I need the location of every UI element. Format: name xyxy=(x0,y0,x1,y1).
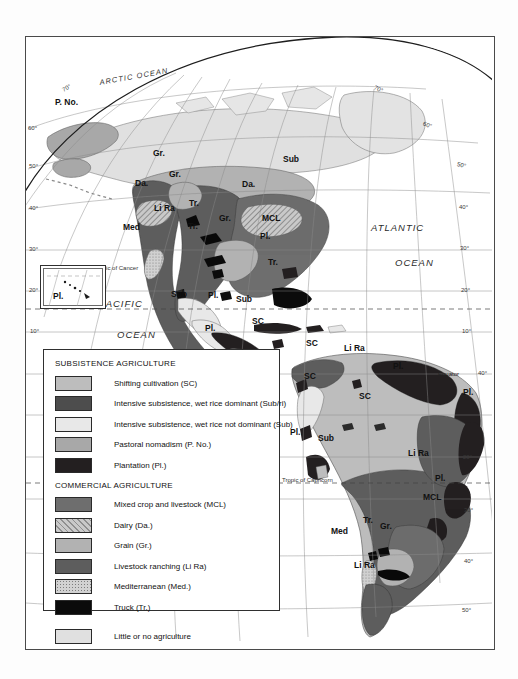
legend-heading-subsistence: SUBSISTENCE AGRICULTURE xyxy=(55,359,279,368)
legend-label-plantation: Plantation (Pl.) xyxy=(114,461,166,470)
legend-label-mediterranean: Mediterranean (Med.) xyxy=(114,582,191,591)
legend-label-grain: Grain (Gr.) xyxy=(114,541,152,550)
hawaii-inset-map xyxy=(43,268,105,308)
legend-item-grain[interactable]: Grain (Gr.) xyxy=(55,536,279,557)
swatch-intensive-subsistence-wet-rice-not-dominant xyxy=(55,417,92,432)
page-root: ARCTIC OCEAN ATLANTIC OCEAN PACIFIC OCEA… xyxy=(0,0,518,679)
swatch-intensive-subsistence-wet-rice-dominant xyxy=(55,396,92,411)
legend-label-dairy: Dairy (Da.) xyxy=(114,521,153,530)
legend-item-livestock-ranching[interactable]: Livestock ranching (Li Ra) xyxy=(55,556,279,577)
legend-item-mixed-crop-and-livestock[interactable]: Mixed crop and livestock (MCL) xyxy=(55,495,279,516)
legend-item-mediterranean[interactable]: Mediterranean (Med.) xyxy=(55,577,279,598)
legend-item-shifting-cultivation[interactable]: Shifting cultivation (SC) xyxy=(55,373,279,394)
swatch-grain xyxy=(55,538,92,553)
legend-label-truck: Truck (Tr.) xyxy=(114,603,150,612)
legend-heading-commercial: COMMERCIAL AGRICULTURE xyxy=(55,481,279,490)
legend-item-intensive-subsistence-wet-rice-dominant[interactable]: Intensive subsistence, wet rice dominant… xyxy=(55,394,279,415)
legend-label-shifting-cultivation: Shifting cultivation (SC) xyxy=(114,379,197,388)
swatch-truck xyxy=(55,600,92,615)
legend-item-intensive-subsistence-wet-rice-not-dominant[interactable]: Intensive subsistence, wet rice not domi… xyxy=(55,414,279,435)
legend-label-little-or-no-agriculture: Little or no agriculture xyxy=(114,632,191,641)
swatch-dairy xyxy=(55,518,92,533)
hawaii-inset: Pl. xyxy=(40,265,106,309)
legend-item-truck[interactable]: Truck (Tr.) xyxy=(55,597,279,618)
legend-label-pastoral-nomadism: Pastoral nomadism (P. No.) xyxy=(114,440,211,449)
legend-item-dairy[interactable]: Dairy (Da.) xyxy=(55,515,279,536)
legend-label-mixed-crop-and-livestock: Mixed crop and livestock (MCL) xyxy=(114,500,226,509)
legend-item-pastoral-nomadism[interactable]: Pastoral nomadism (P. No.) xyxy=(55,435,279,456)
swatch-mediterranean xyxy=(55,579,92,594)
map-legend: SUBSISTENCE AGRICULTURE Shifting cultiva… xyxy=(43,349,280,611)
legend-label-livestock-ranching: Livestock ranching (Li Ra) xyxy=(114,562,206,571)
legend-label-intensive-subsistence-wet-rice-dominant: Intensive subsistence, wet rice dominant… xyxy=(114,399,286,408)
legend-item-plantation[interactable]: Plantation (Pl.) xyxy=(55,455,279,476)
swatch-mixed-crop-and-livestock xyxy=(55,497,92,512)
swatch-livestock-ranching xyxy=(55,559,92,574)
legend-item-little-or-no-agriculture[interactable]: Little or no agriculture xyxy=(55,627,279,648)
legend-label-intensive-subsistence-wet-rice-not-dominant: Intensive subsistence, wet rice not domi… xyxy=(114,420,293,429)
swatch-shifting-cultivation xyxy=(55,376,92,391)
swatch-plantation xyxy=(55,458,92,473)
swatch-pastoral-nomadism xyxy=(55,437,92,452)
swatch-little-or-no-agriculture xyxy=(55,629,92,644)
